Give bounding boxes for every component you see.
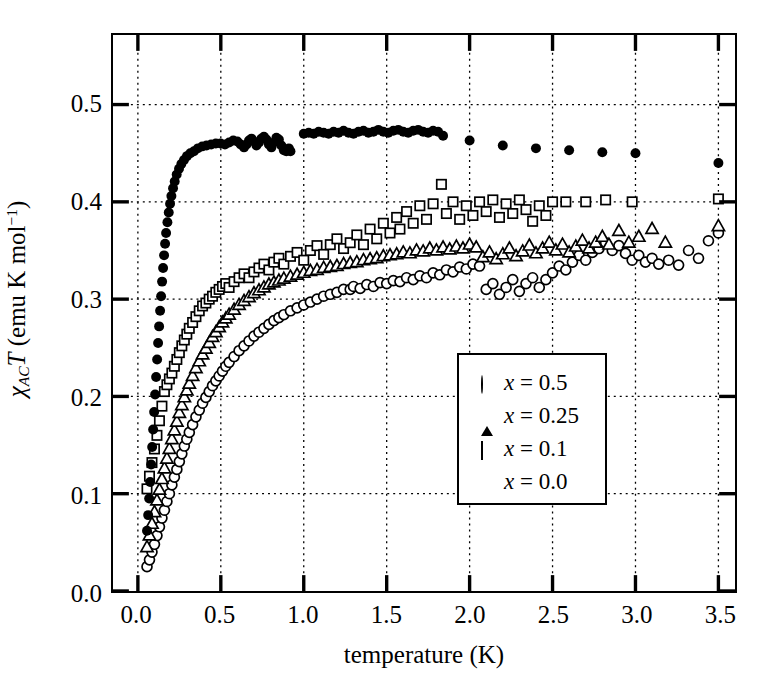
y-tick-label: 0.3 [71,287,102,312]
legend-entry-1: x = 0.25 [481,399,605,432]
legend-box: x = 0.5 x = 0.25 x = 0.1 x = 0.0 [457,353,607,505]
legend-entry-3: x = 0.0 [481,465,605,498]
x-tick-label: 1.0 [287,602,318,627]
x-tick-label: 0.5 [204,602,235,627]
x-tick-label: 0.0 [120,602,151,627]
legend-entry-2: x = 0.1 [481,432,605,465]
y-tick-label: 0.4 [71,189,102,214]
legend-label-3: x = 0.0 [504,470,567,493]
legend-label-0: x = 0.5 [504,371,567,394]
y-tick-label: 0.1 [71,483,102,508]
x-axis-title: temperature (K) [111,641,737,669]
legend-entry-0: x = 0.5 [481,366,605,399]
x-tick-label: 3.5 [705,602,736,627]
legend-label-1: x = 0.25 [504,404,579,427]
x-tick-label: 3.0 [621,602,652,627]
y-tick-label: 0.2 [71,385,102,410]
figure-container: χACT (emu K mol−1) 0.00.10.20.30.40.5 0.… [0,0,782,691]
y-tick-label: 0.5 [71,91,102,116]
open-triangle-icon [481,409,495,423]
open-square-icon [481,442,495,456]
y-axis-title: χACT (emu K mol−1) [3,19,33,579]
legend-label-2: x = 0.1 [504,437,567,460]
x-tick-label-group: 0.00.51.01.52.02.53.03.5 [111,602,737,636]
x-tick-label: 2.5 [538,602,569,627]
open-circle-icon [481,376,495,390]
x-tick-label: 2.0 [454,602,485,627]
x-tick-label: 1.5 [371,602,402,627]
plot-frame [111,33,737,593]
filled-circle-icon [481,475,495,489]
y-tick-label-group: 0.00.10.20.30.40.5 [40,33,102,593]
axis-ticks [113,35,735,591]
y-tick-label: 0.0 [71,581,102,606]
